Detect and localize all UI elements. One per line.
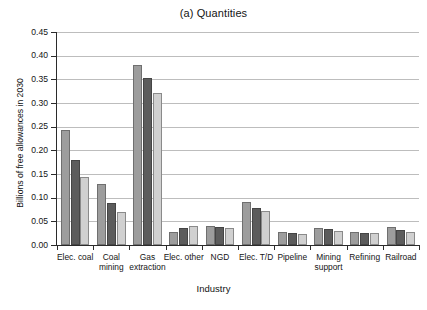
y-tick-mark: [51, 245, 56, 246]
chart-title: (a) Quantities: [0, 7, 427, 19]
bar: [261, 211, 270, 245]
y-tick-mark: [51, 221, 56, 222]
category-label-line1: Railroad: [385, 252, 416, 262]
bar: [215, 227, 224, 245]
gridline: [57, 127, 419, 128]
bar: [189, 226, 198, 245]
bar: [278, 232, 287, 245]
bar: [206, 226, 215, 245]
y-tick-label: 0.45: [16, 27, 48, 37]
x-tick-mark: [310, 246, 311, 250]
bar: [252, 208, 261, 245]
bar: [117, 212, 126, 245]
x-tick-mark: [238, 246, 239, 250]
bar: [143, 78, 152, 245]
y-tick-mark: [51, 32, 56, 33]
bar: [298, 234, 307, 245]
x-axis-title: Industry: [0, 283, 427, 294]
plot-area: [57, 32, 419, 245]
bar: [242, 202, 251, 245]
category-label: Railroad: [361, 252, 427, 262]
bar: [387, 227, 396, 245]
y-tick-mark: [51, 174, 56, 175]
x-tick-mark: [166, 246, 167, 250]
y-axis-line: [56, 32, 57, 246]
y-tick-mark: [51, 150, 56, 151]
gridline: [57, 150, 419, 151]
gridline: [57, 79, 419, 80]
bar: [370, 233, 379, 245]
bar: [360, 233, 369, 245]
gridline: [57, 174, 419, 175]
y-tick-label: 0.20: [16, 145, 48, 155]
bar: [179, 228, 188, 246]
category-label-line2: support: [289, 262, 369, 272]
x-tick-mark: [93, 246, 94, 250]
x-tick-mark: [274, 246, 275, 250]
y-tick-label: 0.35: [16, 74, 48, 84]
bar: [107, 203, 116, 245]
x-tick-mark: [202, 246, 203, 250]
bar: [153, 93, 162, 245]
y-tick-label: 0.15: [16, 169, 48, 179]
x-tick-mark: [347, 246, 348, 250]
bar: [288, 233, 297, 245]
bar: [71, 160, 80, 245]
y-tick-label: 0.05: [16, 216, 48, 226]
y-tick-label: 0.40: [16, 50, 48, 60]
bar: [169, 232, 178, 245]
bar: [133, 65, 142, 245]
chart-figure: (a) Quantities Billions of free allowanc…: [0, 0, 427, 310]
y-tick-label: 0.30: [16, 98, 48, 108]
bar: [97, 184, 106, 245]
bar: [350, 232, 359, 245]
bar: [396, 230, 405, 245]
bar: [61, 130, 70, 245]
y-tick-label: 0.10: [16, 192, 48, 202]
y-tick-mark: [51, 127, 56, 128]
y-tick-mark: [51, 79, 56, 80]
x-tick-mark: [129, 246, 130, 250]
category-label-line2: extraction: [108, 262, 188, 272]
gridline: [57, 103, 419, 104]
bar: [314, 228, 323, 245]
bar: [334, 231, 343, 245]
y-tick-mark: [51, 56, 56, 57]
bar: [406, 232, 415, 245]
y-tick-mark: [51, 103, 56, 104]
gridline: [57, 56, 419, 57]
y-tick-label: 0.00: [16, 240, 48, 250]
gridline: [57, 32, 419, 33]
bar: [225, 228, 234, 245]
y-tick-label: 0.25: [16, 121, 48, 131]
x-tick-mark: [419, 246, 420, 250]
y-tick-mark: [51, 198, 56, 199]
bar: [324, 229, 333, 245]
bar: [80, 177, 89, 245]
x-tick-mark: [383, 246, 384, 250]
gridline: [57, 198, 419, 199]
x-tick-mark: [57, 246, 58, 250]
